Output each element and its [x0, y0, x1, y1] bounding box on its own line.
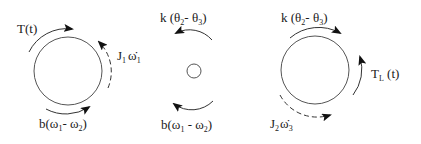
- body-1-group: T(t) J1ω̇1 b(ω1- ω2): [17, 21, 141, 133]
- inertial-torque-2-arrow: [280, 95, 330, 117]
- damping-torque-1-arrow: [46, 107, 89, 114]
- body-3-group: k (θ2- θ3) TL (t) J2ω̇3: [270, 10, 399, 133]
- spring-torque-node-arrow: [176, 30, 212, 40]
- damping-torque-node-label: b(ω1 - ω2): [161, 117, 212, 134]
- load-torque-arrow: [353, 57, 362, 95]
- damping-torque-1-label: b(ω1- ω2): [39, 116, 87, 133]
- inertial-torque-1-label: J1ω̇1: [117, 48, 141, 65]
- spring-torque-2-label: k (θ2- θ3): [281, 10, 327, 27]
- massless-node-disc: [187, 64, 201, 78]
- inertial-torque-2-label: J2ω̇3: [270, 116, 293, 133]
- damping-torque-node-arrow: [174, 101, 213, 110]
- torque-diagram: T(t) J1ω̇1 b(ω1- ω2) k (θ2- θ3) b(ω1 - ω…: [0, 0, 421, 144]
- spring-torque-node-label: k (θ2- θ3): [160, 10, 206, 27]
- inertia-2-disc: [281, 36, 349, 104]
- inertia-1-disc: [34, 37, 102, 105]
- load-torque-label: TL (t): [371, 66, 399, 83]
- applied-torque-label: T(t): [17, 21, 37, 36]
- body-2-group: k (θ2- θ3) b(ω1 - ω2): [160, 10, 213, 134]
